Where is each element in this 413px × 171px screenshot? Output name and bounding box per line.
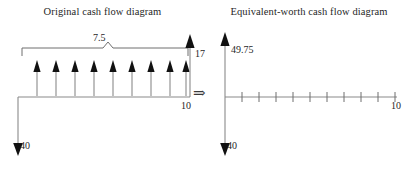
original-future-value-label: 17 [195, 48, 205, 59]
annuity-arrow-5 [109, 60, 116, 96]
original-annuity-arrows [33, 60, 189, 96]
annuity-arrow-8 [166, 60, 173, 96]
original-initial-outflow-label: 40 [20, 140, 30, 151]
annuity-arrow-3 [71, 60, 78, 96]
cash-flow-figure: Original cash flow diagram [0, 0, 413, 171]
original-period-end-label: 10 [181, 100, 191, 111]
original-diagram-drawing [0, 0, 205, 171]
panel-equivalent-worth-cash-flow: Equivalent-worth cash flow diagram [205, 0, 413, 171]
original-annuity-label: 7.5 [93, 32, 106, 43]
annuity-arrow-6 [128, 60, 135, 96]
equivalent-period-end-label: 10 [391, 100, 401, 111]
annuity-arrow-9 [182, 60, 189, 96]
equivalent-future-value-label: 49.75 [231, 44, 254, 55]
equivalent-initial-outflow-label: 40 [227, 140, 237, 151]
original-annuity-brace [22, 42, 188, 56]
annuity-arrow-4 [90, 60, 97, 96]
annuity-arrow-7 [147, 60, 154, 96]
annuity-arrow-1 [33, 60, 40, 96]
transform-arrow-icon: ⇒ [193, 86, 206, 101]
original-terminal-inflow-arrowhead [185, 34, 194, 48]
annuity-arrow-2 [52, 60, 59, 96]
equivalent-future-arrowhead [220, 32, 229, 46]
panel-original-cash-flow: Original cash flow diagram [0, 0, 205, 171]
